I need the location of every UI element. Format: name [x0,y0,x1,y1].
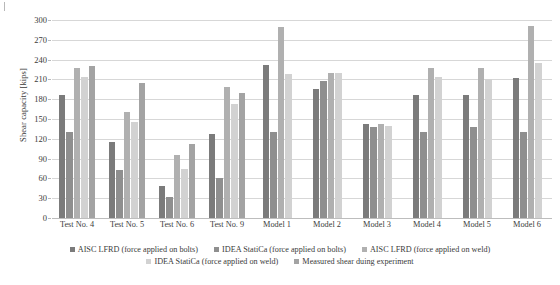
bar [189,144,196,218]
x-axis-label: Test No. 6 [152,220,202,229]
legend-swatch-icon [146,259,151,264]
legend-item[interactable]: IDEA StatiCa (force applied on bolts) [214,245,346,254]
x-axis-label: Test No. 4 [52,220,102,229]
y-tick-mark [48,40,51,41]
legend-item[interactable]: Measured shear duing experiment [294,257,413,266]
bar [463,95,470,218]
bar [428,68,435,218]
bar [239,93,246,218]
bar [320,81,327,218]
bar [335,73,342,218]
bar [74,68,81,218]
bar [513,78,520,218]
bar [385,126,392,218]
bar [313,89,320,218]
bar [270,132,277,218]
bar [413,95,420,218]
bar [116,170,123,218]
x-axis-label: Model 5 [452,220,502,229]
legend-swatch-icon [70,247,75,252]
bar [478,68,485,218]
y-tick-label: 150 [34,114,47,124]
bar [166,197,173,218]
bar-group [452,20,502,218]
legend-swatch-icon [294,259,299,264]
legend-label: Measured shear duing experiment [302,257,413,266]
bar [485,79,492,218]
legend-label: AISC LFRD (force applied on bolts) [78,245,198,254]
y-tick-mark [48,20,51,21]
y-tick-mark [48,79,51,80]
bar [209,134,216,218]
y-tick-label: 60 [39,173,48,183]
bar [224,87,231,218]
legend-item[interactable]: IDEA StatiCa (force applied on weld) [146,257,278,266]
legend-label: AISC LFRD (force applied on weld) [370,245,490,254]
bar [139,83,146,218]
y-tick-label: 300 [34,15,47,25]
legend-swatch-icon [214,247,219,252]
bar [378,124,385,218]
y-tick-mark [48,218,51,219]
bar-group [52,20,102,218]
bar [285,74,292,218]
gridline: 0 [52,218,552,219]
y-tick-label: 30 [39,193,48,203]
bar [420,132,427,218]
y-tick-label: 0 [43,213,47,223]
x-axis-label: Model 2 [302,220,352,229]
y-tick-label: 120 [34,134,47,144]
bar-chart: Shear capacity [kips] 030609012015018021… [0,8,560,240]
y-tick-mark [48,60,51,61]
bar [535,63,542,218]
bar [470,127,477,218]
bar [181,169,188,219]
bar [231,104,238,218]
bar [435,77,442,218]
legend-label: IDEA StatiCa (force applied on weld) [154,257,278,266]
bar [131,122,138,218]
x-axis-label: Test No. 9 [202,220,252,229]
bar [278,27,285,218]
bar-group [102,20,152,218]
bar [370,127,377,218]
bar-group [302,20,352,218]
bar [174,155,181,218]
y-tick-mark [48,159,51,160]
legend-label: IDEA StatiCa (force applied on bolts) [222,245,346,254]
y-tick-label: 90 [39,154,48,164]
bar [528,26,535,218]
bar-groups [52,20,552,218]
plot-area: 0306090120150180210240270300 [52,20,552,218]
y-tick-mark [48,119,51,120]
x-axis-labels: Test No. 4Test No. 5Test No. 6Test No. 9… [52,220,552,229]
x-axis-label: Model 1 [252,220,302,229]
bar [89,66,96,218]
bar-group [252,20,302,218]
bar [109,142,116,218]
bar [363,124,370,218]
bar [263,65,270,218]
y-axis-title: Shear capacity [kips] [18,20,28,190]
bar [59,95,66,218]
y-tick-mark [48,198,51,199]
y-tick-label: 210 [34,74,47,84]
x-axis-label: Model 6 [502,220,552,229]
bar-group [402,20,452,218]
bar [81,77,88,218]
bar-group [502,20,552,218]
y-tick-mark [48,99,51,100]
y-tick-mark [48,178,51,179]
bar [328,73,335,218]
bar-group [352,20,402,218]
x-axis-label: Test No. 5 [102,220,152,229]
legend-swatch-icon [362,247,367,252]
x-axis-label: Model 3 [352,220,402,229]
legend-item[interactable]: AISC LFRD (force applied on weld) [362,245,490,254]
y-tick-label: 180 [34,94,47,104]
bar [66,132,73,218]
bar [124,112,131,218]
legend-item[interactable]: AISC LFRD (force applied on bolts) [70,245,198,254]
y-tick-label: 270 [34,35,47,45]
bar [520,132,527,218]
